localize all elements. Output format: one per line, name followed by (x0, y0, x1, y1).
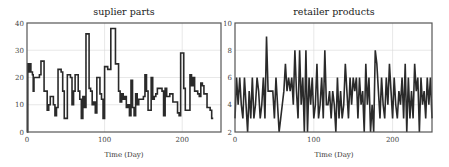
y-tick-label: 10 (224, 20, 232, 28)
x-tick-label: 100 (98, 136, 111, 144)
y-tick-label: 40 (15, 20, 24, 28)
data-line (27, 28, 213, 132)
chart-title: suplier parts (93, 6, 154, 17)
y-axis-ticks: 010203040 (15, 20, 24, 137)
chart-title: retailer products (293, 6, 375, 17)
x-axis-label: Time (Day) (104, 151, 143, 159)
y-tick-label: 8 (228, 47, 232, 55)
y-tick-label: 4 (228, 101, 233, 109)
chart-retailer-products: retailer products 246810 0100200 Time (D… (224, 0, 449, 167)
chart-svg: suplier parts 010203040 0100200 Time (Da… (0, 0, 225, 167)
data-line (235, 37, 432, 132)
y-tick-label: 10 (15, 101, 24, 109)
y-tick-label: 6 (228, 74, 233, 82)
y-tick-label: 2 (228, 129, 232, 137)
y-tick-label: 20 (15, 74, 24, 82)
y-axis-ticks: 246810 (224, 20, 233, 137)
x-axis-ticks: 0100200 (25, 136, 189, 144)
series-line (235, 37, 432, 132)
y-tick-label: 30 (15, 47, 24, 55)
series-line (27, 28, 213, 132)
x-tick-label: 200 (176, 136, 189, 144)
x-axis-label: Time (Day) (314, 151, 353, 159)
x-tick-label: 200 (386, 136, 399, 144)
y-tick-label: 0 (20, 129, 24, 137)
chart-svg: retailer products 246810 0100200 Time (D… (224, 0, 449, 167)
chart-suplier-parts: suplier parts 010203040 0100200 Time (Da… (0, 0, 225, 167)
x-tick-label: 0 (25, 136, 29, 144)
x-axis-ticks: 0100200 (233, 136, 400, 144)
x-tick-label: 0 (233, 136, 237, 144)
x-tick-label: 100 (307, 136, 320, 144)
